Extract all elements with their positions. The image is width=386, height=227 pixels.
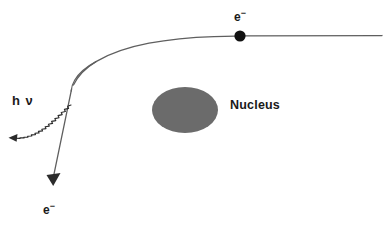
electron-bottom-charge: − [50, 201, 55, 211]
incoming-electron-trajectory-path [74, 36, 383, 86]
electron-bottom-label: e− [43, 202, 55, 216]
electron-bottom-symbol: e [43, 203, 50, 217]
physics-diagram-figure: e− h ν Nucleus e− [0, 0, 386, 227]
nucleus-label: Nucleus [230, 99, 280, 112]
photon-label: h ν [12, 94, 34, 107]
electron-top-label: e− [234, 9, 246, 23]
electron-top-symbol: e [234, 10, 241, 24]
scattered-electron-trajectory-path [54, 89, 72, 176]
electron-dot [234, 30, 245, 41]
trajectory-knee-path [71, 62, 96, 91]
electron-top-charge: − [241, 8, 246, 18]
nucleus-ellipse [152, 87, 218, 133]
scattered-electron-arrowhead [47, 173, 61, 186]
photon-arrowhead [9, 134, 18, 142]
cropped-caption-artifact [0, 221, 386, 227]
diagram-canvas [0, 0, 386, 227]
